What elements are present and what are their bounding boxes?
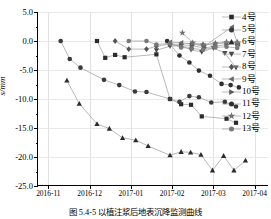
legend-marker-icon xyxy=(222,61,241,73)
y-tick-label: -10.0 xyxy=(15,95,33,104)
y-tick-label: -20.0 xyxy=(15,153,33,162)
legend-item[interactable]: 7号 xyxy=(222,48,271,60)
legend-marker-icon xyxy=(222,123,241,135)
legend-marker-icon xyxy=(222,48,241,60)
figure-container: s/mm 5.00.0-5.0-10.0-15.0-20.0-25.0 2016… xyxy=(0,0,271,219)
y-tick-minor xyxy=(36,172,38,173)
y-tick xyxy=(34,186,38,187)
x-tick-label: 2017-03 xyxy=(201,190,226,197)
legend-marker-icon xyxy=(222,86,241,98)
y-tick xyxy=(34,12,38,13)
legend-item[interactable]: 5号 xyxy=(222,23,271,35)
legend-label: 7号 xyxy=(241,50,256,59)
y-tick-minor xyxy=(36,114,38,115)
legend: 4号5号6号7号8号9号10号11号12号13号 xyxy=(222,11,271,135)
legend-item[interactable]: 6号 xyxy=(222,36,271,48)
gridline-vertical xyxy=(172,12,173,185)
y-tick-label: 0.0 xyxy=(22,37,33,46)
legend-item[interactable]: 9号 xyxy=(222,73,271,85)
x-tick-label: 2017-02 xyxy=(160,190,185,197)
legend-marker-icon xyxy=(222,110,241,122)
legend-item[interactable]: 11号 xyxy=(222,98,271,110)
legend-item[interactable]: 4号 xyxy=(222,11,271,23)
legend-item[interactable]: 13号 xyxy=(222,123,271,135)
legend-label: 10号 xyxy=(241,87,260,96)
y-tick-label: -15.0 xyxy=(15,124,33,133)
legend-label: 5号 xyxy=(241,25,256,34)
legend-item[interactable]: 8号 xyxy=(222,61,271,73)
y-tick-label: 5.0 xyxy=(22,8,33,17)
legend-marker-icon xyxy=(222,73,241,85)
legend-label: 9号 xyxy=(241,75,256,84)
legend-label: 11号 xyxy=(241,99,260,108)
gridline-vertical xyxy=(48,12,49,185)
legend-label: 8号 xyxy=(241,62,256,71)
legend-label: 12号 xyxy=(241,112,260,121)
y-tick-minor xyxy=(36,85,38,86)
legend-label: 4号 xyxy=(241,13,256,22)
legend-label: 6号 xyxy=(241,37,256,46)
gridline-vertical xyxy=(90,12,91,185)
y-tick xyxy=(34,128,38,129)
y-tick xyxy=(34,41,38,42)
gridline-vertical xyxy=(131,12,132,185)
legend-marker-icon xyxy=(222,98,241,110)
y-tick xyxy=(34,70,38,71)
y-tick-label: -5.0 xyxy=(20,66,33,75)
gridline-horizontal xyxy=(38,157,268,158)
legend-marker-icon xyxy=(222,36,241,48)
y-axis-title: s/mm xyxy=(0,76,7,95)
legend-label: 13号 xyxy=(241,124,260,133)
y-tick-minor xyxy=(36,56,38,57)
y-tick-minor xyxy=(36,27,38,28)
y-tick-label: -25.0 xyxy=(15,182,33,191)
x-tick-label: 2017-01 xyxy=(118,190,143,197)
x-tick-label: 2016-11 xyxy=(36,190,60,197)
figure-caption: 图 5.4-5 以植注浆后地表沉降监测曲线 xyxy=(0,205,271,217)
legend-marker-icon xyxy=(222,11,241,23)
legend-item[interactable]: 10号 xyxy=(222,85,271,97)
legend-marker-icon xyxy=(222,24,241,36)
x-tick-label: 2016-12 xyxy=(77,190,102,197)
y-tick xyxy=(34,157,38,158)
y-tick-minor xyxy=(36,143,38,144)
legend-item[interactable]: 12号 xyxy=(222,110,271,122)
gridline-vertical xyxy=(213,12,214,185)
y-tick xyxy=(34,99,38,100)
x-tick-label: 2017-04 xyxy=(242,190,267,197)
